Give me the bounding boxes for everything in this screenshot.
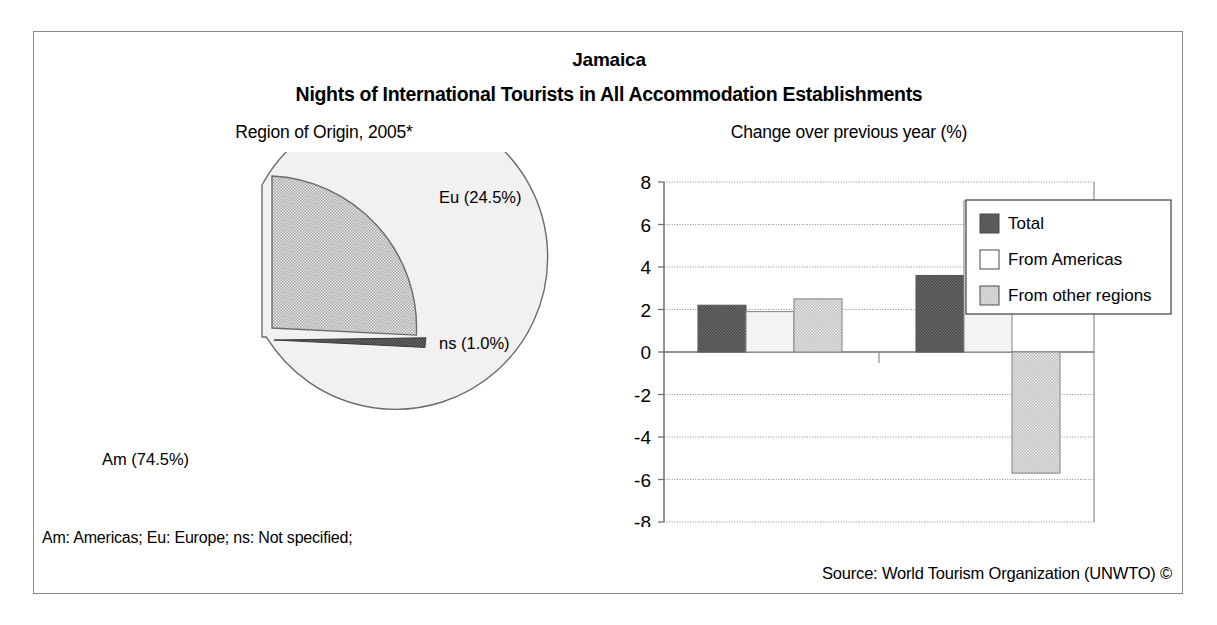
- pie-chart-svg: Eu (24.5%) ns (1.0%) Am (74.5%): [84, 152, 564, 522]
- y-tick-label-neg4: -4: [634, 427, 651, 448]
- source-credit: Source: World Tourism Organization (UNWT…: [822, 564, 1172, 583]
- legend-swatch-from-other-regions: [980, 286, 999, 305]
- bar-2004-2003-from-americas: [746, 312, 794, 352]
- page-subtitle: Nights of International Tourists in All …: [34, 83, 1184, 106]
- y-tick-label-2: 2: [640, 300, 651, 321]
- bar-2005-2004-total: [916, 276, 964, 353]
- y-tick-label-neg8: -8: [634, 512, 651, 527]
- bar-2005-2004-from-other-regions: [1012, 352, 1060, 473]
- legend-label-total: Total: [1008, 214, 1044, 233]
- legend-label-from-other-regions: From other regions: [1008, 286, 1152, 305]
- page-title: Jamaica: [34, 49, 1184, 71]
- bar-2004-2003-total: [698, 305, 746, 352]
- legend-label-from-americas: From Americas: [1008, 250, 1122, 269]
- y-tick-label-0: 0: [640, 342, 651, 363]
- y-tick-label-neg6: -6: [634, 470, 651, 491]
- y-axis-ticks: [658, 182, 664, 522]
- chart-frame: Jamaica Nights of International Tourists…: [33, 31, 1183, 594]
- y-tick-label-6: 6: [640, 215, 651, 236]
- pie-chart: Eu (24.5%) ns (1.0%) Am (74.5%): [84, 152, 564, 522]
- pie-label-ns: ns (1.0%): [439, 334, 510, 352]
- chart-page: Jamaica Nights of International Tourists…: [0, 0, 1217, 625]
- bar-chart-legend: Total From Americas From other regions: [966, 200, 1171, 314]
- bar-chart-svg: 8 6 4 2 0 -2 -4 -6 -8: [594, 137, 1174, 527]
- pie-chart-title: Region of Origin, 2005*: [94, 122, 554, 143]
- bar-2004-2003-from-other-regions: [794, 299, 842, 352]
- y-tick-label-8: 8: [640, 172, 651, 193]
- bar-chart: 8 6 4 2 0 -2 -4 -6 -8: [594, 137, 1174, 527]
- pie-label-eu: Eu (24.5%): [439, 188, 522, 206]
- y-tick-label-4: 4: [640, 257, 651, 278]
- pie-label-am: Am (74.5%): [102, 450, 189, 468]
- footnote-abbreviations: Am: Americas; Eu: Europe; ns: Not specif…: [42, 529, 352, 547]
- legend-swatch-total: [980, 214, 999, 233]
- legend-swatch-from-americas: [980, 250, 999, 269]
- y-tick-label-neg2: -2: [634, 385, 651, 406]
